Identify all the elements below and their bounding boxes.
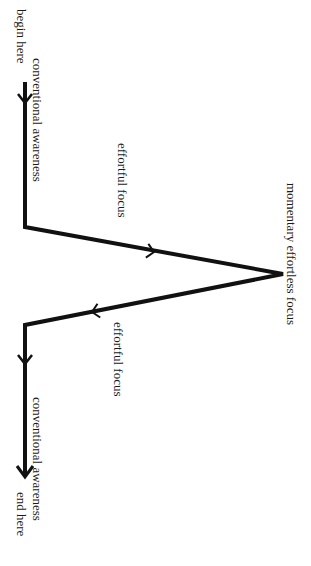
conventional-awareness-top-label: conventional awareness: [31, 58, 44, 182]
begin-here-label: begin here: [15, 9, 28, 64]
effortful-focus-descent-label: effortful focus: [112, 322, 125, 396]
focus-path: [25, 82, 283, 476]
end-here-label: end here: [15, 492, 28, 536]
momentary-effortless-focus-label: momentary effortless focus: [285, 183, 298, 325]
focus-cycle-diagram: [0, 0, 311, 566]
effortful-focus-ascent-label: effortful focus: [116, 143, 129, 217]
conventional-awareness-bottom-label: conventional awareness: [31, 397, 44, 521]
